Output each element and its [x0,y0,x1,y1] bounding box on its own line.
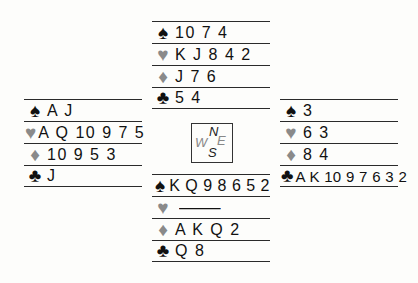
compass-box: N W E S [191,123,233,163]
heart-icon: ♥ [153,45,173,65]
compass-east: E [217,134,226,147]
north-hand: ♠ 10 7 4 ♥ K J 8 4 2 ♦ J 7 6 ♣ 5 4 [152,21,270,109]
west-clubs: J [47,167,57,185]
compass-west: W [195,136,207,149]
west-spades: A J [47,102,74,120]
west-diamonds-row: ♦ 10 9 5 3 [24,143,142,165]
east-clubs-row: ♣ A K 10 9 7 6 3 2 [280,165,398,187]
north-spades: 10 7 4 [175,24,228,42]
north-hearts: K J 8 4 2 [175,46,252,64]
east-hearts-row: ♥ 6 3 [280,121,398,143]
club-icon: ♣ [281,166,293,186]
north-hearts-row: ♥ K J 8 4 2 [152,43,270,65]
south-hand: ♠ K Q 9 8 6 5 2 ♥ — ♦ A K Q 2 ♣ Q 8 [152,174,270,262]
north-spades-row: ♠ 10 7 4 [152,21,270,43]
diamond-icon: ♦ [153,67,173,87]
compass-south: S [208,146,217,159]
north-clubs-row: ♣ 5 4 [152,87,270,109]
spade-icon: ♠ [153,23,173,43]
east-diamonds-row: ♦ 8 4 [280,143,398,165]
north-diamonds-row: ♦ J 7 6 [152,65,270,87]
diamond-icon: ♦ [153,220,173,240]
east-clubs: A K 10 9 7 6 3 2 [295,168,407,185]
north-diamonds: J 7 6 [175,68,217,86]
diamond-icon: ♦ [25,145,45,165]
north-clubs: 5 4 [175,89,202,107]
heart-icon: ♥ [25,123,36,143]
club-icon: ♣ [25,166,45,186]
east-hand: ♠ 3 ♥ 6 3 ♦ 8 4 ♣ A K 10 9 7 6 3 2 [280,99,398,187]
west-hand: ♠ A J ♥ A Q 10 9 7 5 ♦ 10 9 5 3 ♣ J [24,99,142,187]
east-spades: 3 [303,102,313,120]
west-hearts: A Q 10 9 7 5 [38,124,145,142]
diamond-icon: ♦ [281,145,301,165]
spade-icon: ♠ [153,176,167,196]
south-clubs: Q 8 [175,242,205,260]
east-hearts: 6 3 [303,124,330,142]
south-clubs-row: ♣ Q 8 [152,240,270,262]
south-spades-row: ♠ K Q 9 8 6 5 2 [152,174,270,196]
south-hearts-row: ♥ — [152,196,270,218]
heart-icon: ♥ [153,198,173,218]
south-spades: K Q 9 8 6 5 2 [169,177,270,195]
spade-icon: ♠ [281,101,301,121]
west-spades-row: ♠ A J [24,99,142,121]
south-hearts-void: — [179,199,221,217]
heart-icon: ♥ [281,123,301,143]
east-diamonds: 8 4 [303,146,330,164]
west-hearts-row: ♥ A Q 10 9 7 5 [24,121,142,143]
west-diamonds: 10 9 5 3 [47,146,117,164]
club-icon: ♣ [153,241,173,261]
spade-icon: ♠ [25,101,45,121]
east-spades-row: ♠ 3 [280,99,398,121]
club-icon: ♣ [153,88,173,108]
south-diamonds: A K Q 2 [175,221,241,239]
west-clubs-row: ♣ J [24,165,142,187]
south-diamonds-row: ♦ A K Q 2 [152,218,270,240]
